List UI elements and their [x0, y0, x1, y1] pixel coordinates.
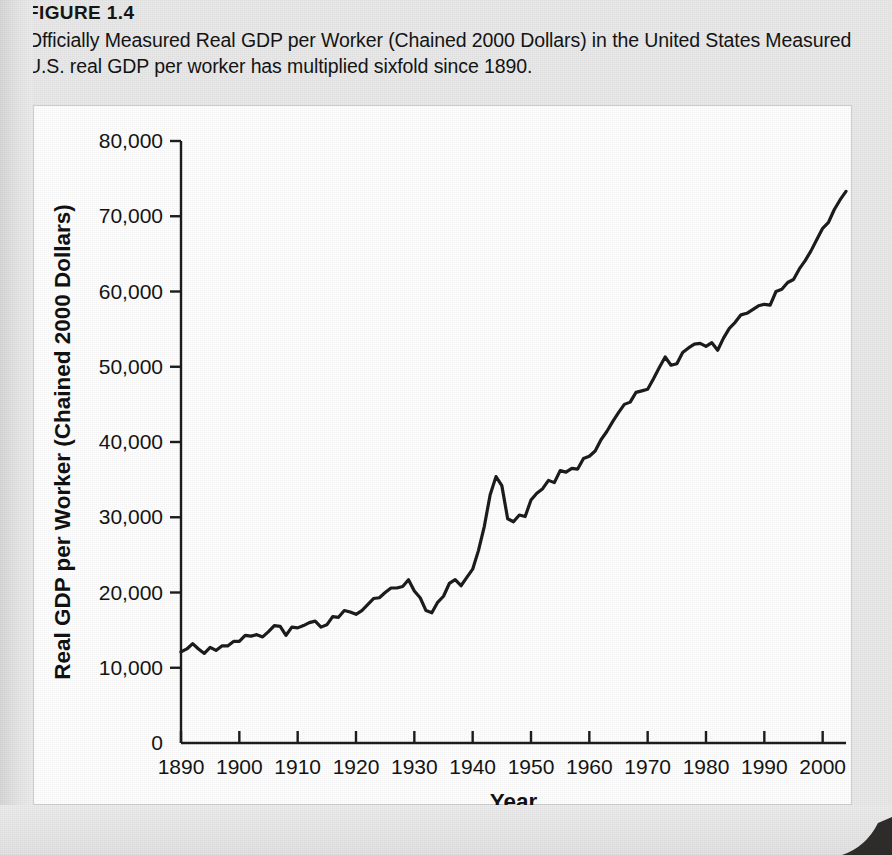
- figure-caption: Officially Measured Real GDP per Worker …: [27, 28, 867, 79]
- x-tick-label: 1970: [624, 755, 671, 778]
- y-tick-label: 50,000: [99, 355, 163, 378]
- data-series-line: [181, 191, 846, 653]
- page-left-margin: [0, 0, 33, 855]
- figure-header: FIGURE 1.4 Officially Measured Real GDP …: [27, 2, 867, 79]
- y-tick-label: 80,000: [99, 129, 163, 152]
- x-tick-label: 1900: [216, 755, 263, 778]
- y-axis-title: Real GDP per Worker (Chained 2000 Dollar…: [50, 204, 75, 680]
- x-axis: 1890190019101920193019401950196019701980…: [158, 731, 846, 778]
- x-tick-label: 1890: [158, 755, 205, 778]
- x-tick-label: 1930: [391, 755, 438, 778]
- y-tick-label: 20,000: [99, 581, 163, 604]
- x-tick-label: 1920: [333, 755, 380, 778]
- x-axis-title: Year: [490, 789, 538, 806]
- y-tick-label: 10,000: [99, 656, 163, 679]
- x-tick-label: 1990: [741, 755, 788, 778]
- y-axis: 010,00020,00030,00040,00050,00060,00070,…: [99, 129, 181, 754]
- chart-panel: 010,00020,00030,00040,00050,00060,00070,…: [33, 105, 852, 805]
- y-tick-label: 0: [151, 731, 163, 754]
- x-tick-label: 1960: [566, 755, 613, 778]
- x-tick-label: 2000: [799, 755, 846, 778]
- x-tick-label: 1910: [274, 755, 321, 778]
- y-tick-label: 30,000: [99, 505, 163, 528]
- figure-number: FIGURE 1.4: [27, 2, 867, 24]
- y-tick-label: 60,000: [99, 280, 163, 303]
- y-tick-label: 40,000: [99, 430, 163, 453]
- page-bottom-margin: [0, 805, 892, 855]
- x-tick-label: 1980: [683, 755, 730, 778]
- gdp-per-worker-line-chart: 010,00020,00030,00040,00050,00060,00070,…: [34, 106, 853, 806]
- x-tick-label: 1950: [508, 755, 555, 778]
- x-tick-label: 1940: [449, 755, 496, 778]
- y-tick-label: 70,000: [99, 204, 163, 227]
